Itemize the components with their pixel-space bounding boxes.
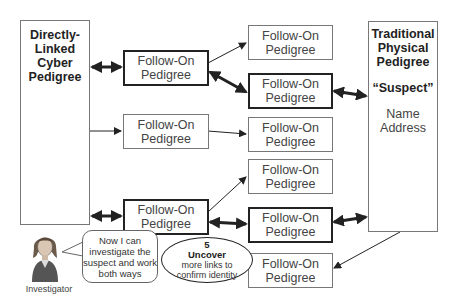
- follow-on-pedigree-box: Follow-On Pedigree: [248, 117, 333, 152]
- box-label: Pedigree: [141, 132, 191, 146]
- box-label: Pedigree: [265, 225, 315, 239]
- box-label: Follow-On: [262, 257, 319, 271]
- investigator-label: Investigator: [24, 284, 74, 294]
- box-label: Follow-On: [262, 29, 319, 43]
- bubble-line: investigate the: [89, 246, 150, 257]
- speech-bubble-tail: [60, 240, 84, 260]
- follow-on-pedigree-box: Follow-On Pedigree: [123, 50, 209, 86]
- left-box-line: Cyber: [21, 56, 89, 70]
- box-label: Follow-On: [262, 121, 319, 135]
- name-field-label: Name: [369, 107, 437, 121]
- box-label: Pedigree: [265, 135, 315, 149]
- right-box-title: Physical: [369, 41, 437, 55]
- box-label: Pedigree: [265, 271, 315, 285]
- traditional-physical-pedigree-box: Traditional Physical Pedigree “Suspect” …: [368, 21, 438, 232]
- step-line: more links to: [181, 260, 232, 270]
- follow-on-pedigree-box: Follow-On Pedigree: [123, 114, 209, 149]
- step-5-uncover-ellipse: 5 Uncover more links to confirm identity: [161, 237, 253, 283]
- box-label: Follow-On: [138, 203, 195, 217]
- box-label: Follow-On: [262, 163, 319, 177]
- follow-on-pedigree-box: Follow-On Pedigree: [248, 207, 333, 243]
- box-label: Follow-On: [138, 54, 195, 68]
- box-label: Pedigree: [141, 68, 191, 82]
- right-box-title: Traditional: [369, 27, 437, 41]
- directly-linked-cyber-pedigree-box: Directly- Linked Cyber Pedigree: [20, 20, 90, 225]
- follow-on-pedigree-box: Follow-On Pedigree: [248, 73, 333, 109]
- box-label: Pedigree: [265, 43, 315, 57]
- speech-bubble: Now I can investigate the suspect and wo…: [82, 230, 158, 283]
- follow-on-pedigree-box: Follow-On Pedigree: [248, 253, 333, 288]
- suspect-label: “Suspect”: [369, 81, 437, 95]
- bubble-line: Now I can: [99, 235, 141, 246]
- step-line: confirm identity: [177, 270, 238, 280]
- left-box-line: Pedigree: [21, 70, 89, 84]
- box-label: Follow-On: [262, 77, 319, 91]
- bubble-line: both ways: [99, 268, 142, 279]
- follow-on-pedigree-box: Follow-On Pedigree: [248, 159, 333, 194]
- right-box-title: Pedigree: [369, 55, 437, 69]
- box-label: Follow-On: [138, 118, 195, 132]
- box-label: Pedigree: [265, 91, 315, 105]
- follow-on-pedigree-box: Follow-On Pedigree: [248, 25, 333, 60]
- box-label: Follow-On: [262, 211, 319, 225]
- box-label: Pedigree: [265, 177, 315, 191]
- step-title: Uncover: [188, 250, 226, 260]
- left-box-line: Linked: [21, 42, 89, 56]
- box-label: Pedigree: [141, 217, 191, 231]
- bubble-line: suspect and work: [83, 257, 157, 268]
- investigator-icon: [28, 232, 62, 282]
- left-box-line: Directly-: [21, 28, 89, 42]
- address-field-label: Address: [369, 121, 437, 135]
